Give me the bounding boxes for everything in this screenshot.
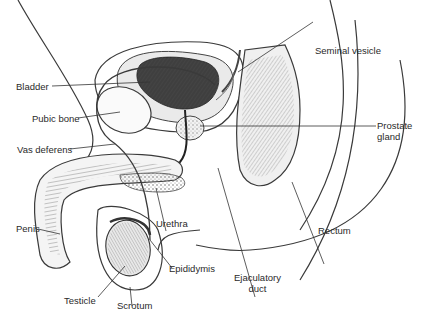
label-bladder: Bladder xyxy=(16,81,49,92)
label-scrotum: Scrotum xyxy=(117,300,152,311)
label-ejaculatory-duct-line1: Ejaculatory xyxy=(234,272,281,283)
label-prostate-gland-line1: Prostate xyxy=(377,120,412,131)
label-ejaculatory-duct-line2: duct xyxy=(234,283,281,294)
testicle xyxy=(101,217,154,280)
label-ejaculatory-duct: Ejaculatory duct xyxy=(234,272,281,294)
label-pubic-bone: Pubic bone xyxy=(32,113,80,124)
label-prostate-gland: Prostate gland xyxy=(377,120,412,142)
label-urethra: Urethra xyxy=(156,218,188,229)
label-prostate-gland-line2: gland xyxy=(377,131,412,142)
prostate-gland xyxy=(176,116,204,140)
label-testicle: Testicle xyxy=(64,295,96,306)
rectum xyxy=(237,45,300,186)
label-rectum: Rectum xyxy=(318,225,351,236)
label-vas-deferens: Vas deferens xyxy=(17,144,72,155)
label-epididymis: Epididymis xyxy=(169,263,215,274)
label-seminal-vesicle: Seminal vesicle xyxy=(315,45,381,56)
label-penis: Penis xyxy=(16,223,40,234)
body-outline xyxy=(18,0,405,280)
